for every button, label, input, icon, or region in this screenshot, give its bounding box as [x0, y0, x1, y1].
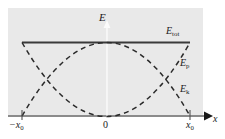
x-axis-label: x — [213, 114, 217, 124]
x-max-tick-label-sub: 0 — [190, 124, 193, 131]
x-min-tick-label-base: −x — [9, 119, 20, 130]
total-energy-label: Etot — [166, 26, 179, 36]
potential-energy-label: Ep — [180, 58, 190, 68]
total-energy-label-sub: tot — [172, 30, 179, 37]
kinetic-energy-label: Ek — [180, 84, 190, 94]
energy-axis-label: E — [99, 12, 106, 23]
kinetic-energy-label-sub: k — [186, 88, 189, 95]
x-max-tick-label: x0 — [186, 120, 194, 130]
x-min-tick-label: −x0 — [9, 120, 24, 130]
origin-tick-label: 0 — [103, 120, 108, 130]
x-min-tick-label-sub: 0 — [20, 124, 23, 131]
potential-energy-label-sub: p — [186, 62, 189, 69]
energy-vs-position-diagram — [0, 0, 225, 139]
